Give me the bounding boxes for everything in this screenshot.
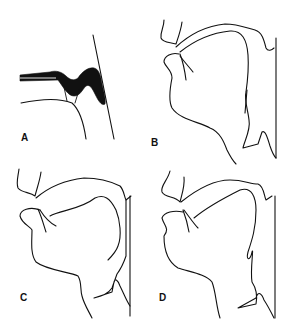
- palate-filled-shape: [20, 68, 105, 105]
- tongue-outline: [21, 100, 86, 139]
- tongue-pharynx-outline-d: [194, 189, 274, 318]
- tooth-line-c1: [40, 210, 56, 226]
- panel-label-d: D: [159, 292, 166, 303]
- lower-jaw-outline-c: [20, 208, 92, 318]
- tongue-pharynx-outline: [180, 31, 276, 158]
- lower-jaw-outline-d: [162, 211, 220, 318]
- tongue-outline-c: [50, 197, 120, 261]
- upper-lip-outline-d: [162, 171, 185, 202]
- panel-label-a: A: [21, 132, 28, 143]
- panel-b: [161, 20, 276, 164]
- panel-d: [162, 171, 275, 318]
- lower-jaw-outline: [164, 53, 236, 164]
- panel-label-c: C: [20, 292, 27, 303]
- figure-canvas: A B C D: [0, 0, 295, 333]
- pharynx-outline-c: [94, 200, 130, 306]
- panel-a: [20, 35, 114, 139]
- upper-lip-outline: [161, 20, 182, 44]
- panel-c: [17, 169, 131, 318]
- palate-outline-d: [181, 180, 272, 202]
- palate-outline-c: [36, 178, 131, 200]
- tooth-line-2: [180, 54, 186, 80]
- upper-lip-outline-c: [17, 169, 41, 196]
- panel-label-b: B: [151, 137, 158, 148]
- palate-upper-outline: [176, 24, 274, 50]
